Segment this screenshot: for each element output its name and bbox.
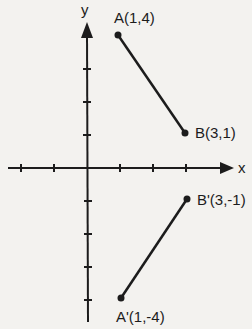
x-axis xyxy=(8,162,234,174)
y-axis-arrow-icon xyxy=(81,22,93,38)
label-a: A(1,4) xyxy=(114,10,155,25)
plane-graphics xyxy=(0,0,252,329)
label-b: B(3,1) xyxy=(195,125,236,140)
label-b-prime: B'(3,-1) xyxy=(197,192,246,207)
segment-ab xyxy=(115,32,189,137)
label-a-prime: A'(1,-4) xyxy=(116,309,165,324)
x-axis-label: x xyxy=(238,160,246,175)
point-a xyxy=(115,32,122,39)
x-axis-arrow-icon xyxy=(220,162,234,174)
point-b-prime xyxy=(184,196,191,203)
y-axis xyxy=(81,22,93,322)
y-axis-label: y xyxy=(81,2,89,17)
segment-a-prime-b-prime xyxy=(118,196,191,302)
point-b xyxy=(182,130,189,137)
coordinate-plane: y x A(1,4) B(3,1) A'(1,-4) B'(3,-1) xyxy=(0,0,252,329)
point-a-prime xyxy=(118,295,125,302)
